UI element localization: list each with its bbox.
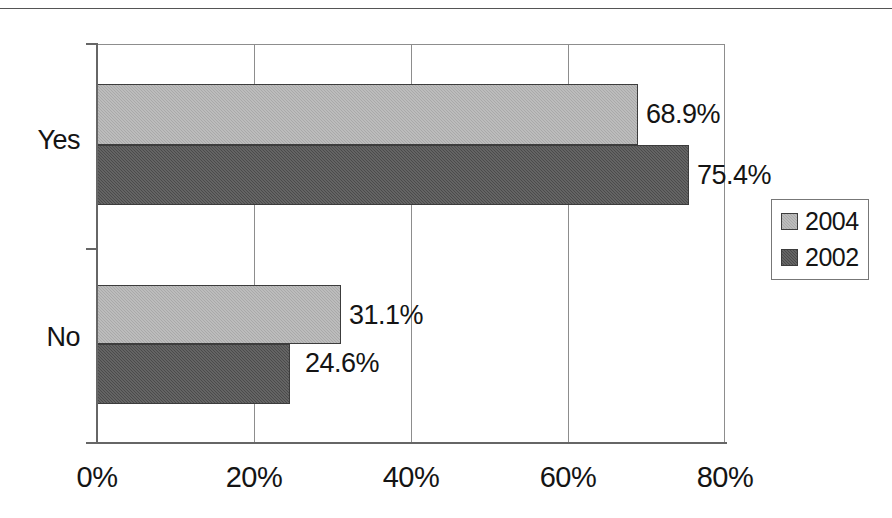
category-label-yes: Yes [0, 125, 80, 156]
x-tick-label-60: 60% [508, 461, 628, 494]
gridline-80pct [724, 44, 725, 443]
x-tick-label-0: 0% [37, 461, 157, 494]
legend-item-2004[interactable]: 2004 [781, 209, 859, 234]
legend-swatch-2002-icon [781, 249, 798, 266]
bar-value-yes-2004: 68.9% [646, 99, 720, 130]
chart-legend: 2004 2002 [771, 199, 869, 280]
y-axis-line [96, 43, 98, 444]
bar-value-no-2002: 24.6% [305, 348, 379, 379]
legend-swatch-2004-icon [781, 213, 798, 230]
legend-item-2002[interactable]: 2002 [781, 245, 859, 270]
x-tick-label-80: 80% [665, 461, 785, 494]
bar-chart: 68.9% 75.4% 31.1% 24.6% Yes No 0% 20% 40… [0, 0, 892, 518]
bar-yes-2002[interactable] [97, 145, 689, 205]
x-tick-label-40: 40% [351, 461, 471, 494]
bar-yes-2004[interactable] [97, 84, 638, 145]
x-axis-line [86, 442, 727, 444]
category-label-no: No [0, 322, 80, 353]
legend-label-2004: 2004 [805, 209, 859, 234]
bar-no-2002[interactable] [97, 344, 290, 404]
y-axis-tick-middle [86, 248, 97, 250]
plot-area [97, 44, 725, 443]
bar-value-yes-2002: 75.4% [697, 160, 771, 191]
legend-label-2002: 2002 [805, 245, 859, 270]
page-canvas: 68.9% 75.4% 31.1% 24.6% Yes No 0% 20% 40… [0, 0, 892, 518]
bar-value-no-2004: 31.1% [349, 300, 423, 331]
x-tick-label-20: 20% [194, 461, 314, 494]
bar-no-2004[interactable] [97, 285, 341, 344]
y-axis-tick-top [86, 43, 97, 45]
